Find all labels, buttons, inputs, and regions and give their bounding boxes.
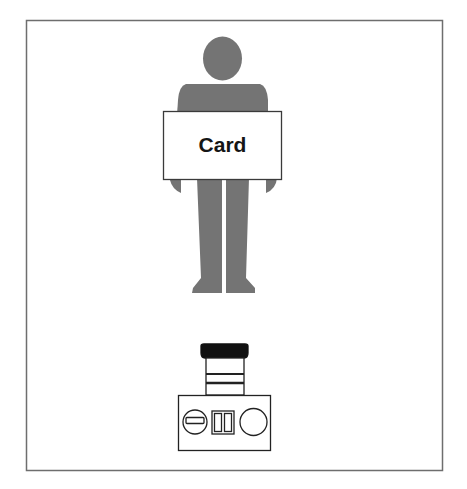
person-head	[203, 37, 242, 81]
camera-dial-slot	[186, 418, 204, 424]
card: Card	[164, 112, 282, 180]
camera-lens-cap	[201, 344, 248, 358]
diagram-canvas: Card	[0, 0, 467, 489]
person-torso	[177, 84, 268, 115]
card-label: Card	[199, 133, 247, 156]
camera-viewfinder-window	[225, 414, 232, 432]
camera-lens-barrel	[206, 358, 244, 395]
camera-flash-icon	[240, 409, 267, 436]
camera-viewfinder-window	[215, 414, 222, 432]
